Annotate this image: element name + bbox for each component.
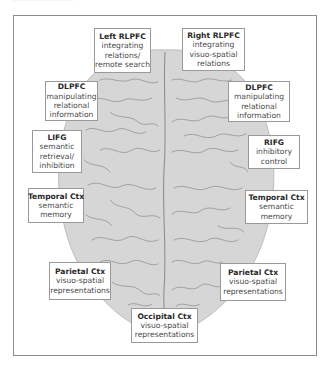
region-description-line: inhibitory — [256, 147, 292, 156]
region-description-line: visuo-spatial — [140, 321, 188, 330]
region-description-line: visuo-spatial — [189, 50, 237, 59]
region-description-line: memory — [40, 210, 72, 219]
region-title: LIFG — [47, 133, 66, 142]
region-description-line: memory — [261, 212, 293, 221]
region-description-line: retrieval/ — [40, 152, 74, 161]
region-title: DLPFC — [245, 83, 272, 92]
region-description-line: manipulating — [234, 92, 284, 101]
region-description-line: representations — [135, 330, 195, 339]
region-title: Occipital Ctx — [137, 312, 191, 321]
region-title: Parietal Ctx — [55, 267, 105, 276]
region-label-left-parietal: Parietal Ctx visuo-spatial representatio… — [49, 262, 111, 300]
region-description-line: semantic — [39, 201, 74, 210]
region-description-line: manipulating — [46, 92, 96, 101]
region-title: Parietal Ctx — [228, 268, 278, 277]
region-label-left-dlpfc: DLPFC manipulating relational informatio… — [45, 81, 98, 121]
region-description-line: semantic — [40, 142, 75, 151]
region-description-line: inhibition — [39, 161, 74, 170]
region-title: RIFG — [264, 138, 284, 147]
region-title: DLPFC — [58, 82, 85, 91]
region-description-line: representations — [50, 286, 110, 295]
region-description-line: relations/ — [105, 51, 140, 60]
region-label-lifg: LIFG semantic retrieval/ inhibition — [32, 130, 82, 173]
region-title: Right RLPFC — [187, 31, 240, 40]
region-label-left-rlpfc: Left RLPFC integrating relations/ remote… — [94, 28, 151, 73]
region-description-line: relations — [197, 59, 230, 68]
region-description-line: integrating — [102, 41, 144, 50]
region-description-line: visuo-spatial — [56, 276, 104, 285]
region-description-line: visuo-spatial — [229, 277, 277, 286]
region-title: Temporal Ctx — [28, 192, 84, 201]
region-label-occipital: Occipital Ctx visuo-spatial representati… — [131, 308, 198, 343]
region-description-line: relational — [241, 102, 277, 111]
region-description-line: relational — [54, 101, 90, 110]
region-label-right-rlpfc: Right RLPFC integrating visuo-spatial re… — [182, 28, 245, 71]
region-description-line: information — [237, 111, 281, 120]
region-label-rifg: RIFG inhibitory control — [248, 135, 300, 169]
region-description-line: representations — [223, 287, 283, 296]
region-description-line: information — [50, 110, 94, 119]
region-description-line: integrating — [193, 40, 235, 49]
region-title: Left RLPFC — [99, 32, 146, 41]
region-label-right-dlpfc: DLPFC manipulating relational informatio… — [228, 81, 290, 122]
region-description-line: control — [261, 157, 287, 166]
region-description-line: semantic — [259, 202, 294, 211]
region-label-right-parietal: Parietal Ctx visuo-spatial representatio… — [220, 263, 286, 301]
region-description-line: remote search — [95, 60, 150, 69]
region-label-left-temporal: Temporal Ctx semantic memory — [28, 188, 84, 223]
region-title: Temporal Ctx — [248, 193, 304, 202]
region-label-right-temporal: Temporal Ctx semantic memory — [245, 190, 308, 224]
